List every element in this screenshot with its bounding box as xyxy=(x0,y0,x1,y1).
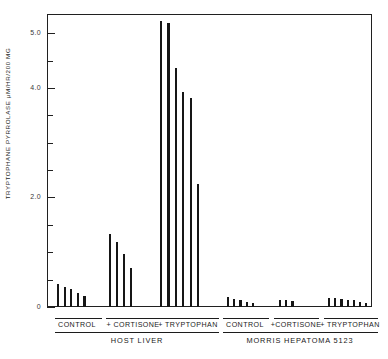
caption-ghost-text xyxy=(18,351,374,358)
bar xyxy=(246,302,248,307)
bar xyxy=(160,21,162,307)
y-tick-label: 0 xyxy=(11,303,41,310)
group-underline xyxy=(324,318,378,319)
bar xyxy=(57,284,59,307)
group-underline xyxy=(106,318,161,319)
group-underline xyxy=(274,318,319,319)
y-tick-major xyxy=(47,307,55,308)
bar xyxy=(123,254,125,307)
section-underline xyxy=(55,332,219,333)
bar xyxy=(233,299,235,307)
bar xyxy=(83,296,85,307)
bar xyxy=(167,23,169,307)
bar xyxy=(359,302,361,307)
y-tick-label: 2.0 xyxy=(11,193,41,200)
bar xyxy=(116,242,118,307)
bar xyxy=(365,303,367,307)
bar xyxy=(130,268,132,307)
bars-layer xyxy=(47,14,372,307)
bar xyxy=(197,184,199,307)
bar xyxy=(279,300,281,307)
bar xyxy=(285,300,287,307)
section-underline xyxy=(223,332,378,333)
y-axis-title: TRYPTOPHANE PYRROLASE μM/HR/200 MG xyxy=(4,9,11,239)
bar xyxy=(175,68,177,307)
bar xyxy=(109,234,111,307)
group-underline xyxy=(157,318,219,319)
bar xyxy=(252,303,254,307)
bar xyxy=(340,299,342,307)
y-tick-label: 4.0 xyxy=(11,84,41,91)
bar xyxy=(291,301,293,307)
bar xyxy=(182,92,184,307)
bar xyxy=(328,298,330,307)
group-label: + TRYPTOPHAN xyxy=(300,321,388,329)
section-label: HOST LIVER xyxy=(57,336,217,345)
figure-tryptophane-pyrrolase: TRYPTOPHANE PYRROLASE μM/HR/200 MG 02.04… xyxy=(0,0,388,359)
y-tick-label: 5.0 xyxy=(11,29,41,36)
bar xyxy=(334,298,336,307)
bar xyxy=(70,289,72,307)
bar xyxy=(239,300,241,307)
bar xyxy=(347,300,349,307)
bar xyxy=(77,293,79,307)
bar xyxy=(190,98,192,307)
bar xyxy=(64,287,66,307)
group-underline xyxy=(55,318,102,319)
bar xyxy=(227,297,229,307)
group-underline xyxy=(223,318,269,319)
section-label: MORRIS HEPATOMA 5123 xyxy=(220,336,380,345)
bar xyxy=(353,300,355,307)
